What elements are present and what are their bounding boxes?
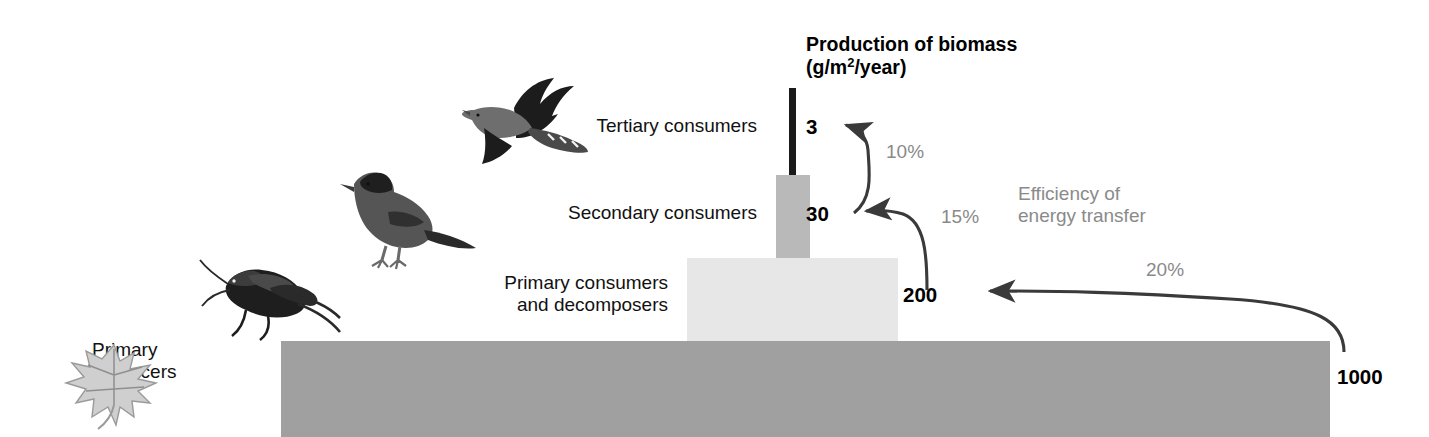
chart-title-units-pre: (g/m	[806, 56, 847, 78]
value-tertiary-consumers: 3	[806, 115, 817, 139]
bar-tertiary-consumers	[789, 88, 796, 175]
chart-title: Production of biomass(g/m2/year)	[806, 33, 1017, 79]
efficiency-label-15-percent: 15%	[941, 206, 979, 228]
value-primary-consumers: 200	[903, 283, 937, 307]
energy-pyramid-figure: Production of biomass(g/m2/year) Tertiar…	[0, 0, 1429, 437]
transfer-arrow-10-percent	[846, 125, 869, 213]
label-primary-producers: Primary producers	[92, 339, 247, 384]
label-primary-consumers: Primary consumers and decomposers	[352, 272, 668, 317]
chart-title-line1: Production of biomass	[806, 33, 1017, 55]
bar-primary-producers	[281, 341, 1330, 437]
bar-primary-consumers-and-decomposers	[687, 258, 898, 341]
label-tertiary-consumers: Tertiary consumers	[372, 115, 757, 137]
value-secondary-consumers: 30	[806, 202, 829, 226]
cricket-icon	[200, 260, 340, 340]
value-primary-producers: 1000	[1337, 365, 1383, 389]
label-secondary-consumers: Secondary consumers	[342, 202, 757, 224]
efficiency-of-energy-transfer-caption: Efficiency of energy transfer	[1018, 183, 1146, 228]
chart-title-units-post: /year)	[854, 56, 906, 78]
efficiency-label-10-percent: 10%	[886, 141, 924, 163]
efficiency-label-20-percent: 20%	[1146, 259, 1184, 281]
bar-secondary-consumers	[776, 175, 810, 258]
